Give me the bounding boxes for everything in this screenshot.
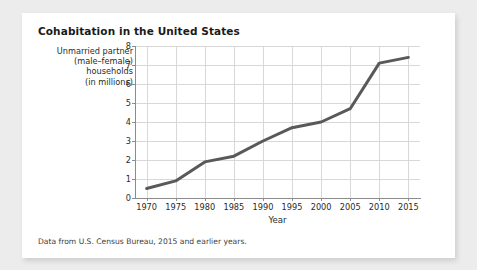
y-axis-tick-label: 5 — [126, 98, 131, 108]
x-axis-tick-mark — [350, 198, 351, 201]
y-axis-tick-label: 0 — [126, 193, 131, 203]
y-axis-label-line-1: Unmarried partner — [30, 46, 133, 56]
y-axis-tick-label: 1 — [126, 174, 131, 184]
page-title: Cohabitation in the United States — [38, 25, 240, 37]
x-axis-tick-mark — [292, 198, 293, 201]
x-axis-tick-label: 1995 — [282, 202, 303, 212]
y-axis-label: Unmarried partner (male–female) househol… — [30, 46, 133, 87]
x-axis-label: Year — [135, 215, 420, 225]
plot-area: 0123456781970197519801985199019952000200… — [135, 46, 420, 198]
y-axis-tick-mark — [132, 160, 135, 161]
y-axis-tick-mark — [132, 84, 135, 85]
x-axis-tick-label: 2010 — [369, 202, 390, 212]
y-axis-label-line-4: (in millions) — [30, 77, 133, 87]
x-axis-tick-label: 2000 — [311, 202, 332, 212]
x-axis-tick-mark — [205, 198, 206, 201]
chart-card: Cohabitation in the United States Unmarr… — [22, 13, 455, 258]
y-axis-tick-mark — [132, 198, 135, 199]
x-axis-tick-label: 1980 — [194, 202, 215, 212]
x-axis-line — [135, 198, 421, 199]
x-axis-tick-label: 1985 — [223, 202, 244, 212]
y-axis-label-line-2: (male–female) — [30, 56, 133, 66]
y-axis-tick-label: 3 — [126, 136, 131, 146]
source-caption: Data from U.S. Census Bureau, 2015 and e… — [38, 237, 247, 246]
y-axis-tick-label: 2 — [126, 155, 131, 165]
y-axis-tick-label: 8 — [126, 41, 131, 51]
x-axis-tick-label: 2005 — [340, 202, 361, 212]
x-axis-tick-mark — [147, 198, 148, 201]
x-axis-tick-mark — [234, 198, 235, 201]
x-axis-tick-mark — [176, 198, 177, 201]
y-axis-tick-mark — [132, 122, 135, 123]
x-axis-tick-mark — [263, 198, 264, 201]
data-series-line — [135, 46, 420, 198]
y-axis-label-line-3: households — [30, 66, 133, 76]
x-axis-tick-mark — [321, 198, 322, 201]
page-background: Cohabitation in the United States Unmarr… — [0, 0, 477, 270]
x-axis-tick-label: 2015 — [398, 202, 419, 212]
x-axis-tick-label: 1970 — [136, 202, 157, 212]
y-axis-tick-label: 6 — [126, 79, 131, 89]
y-axis-tick-mark — [132, 103, 135, 104]
y-axis-tick-mark — [132, 179, 135, 180]
x-axis-tick-label: 1975 — [165, 202, 186, 212]
y-axis-tick-label: 7 — [126, 60, 131, 70]
x-axis-tick-mark — [408, 198, 409, 201]
y-axis-tick-mark — [132, 65, 135, 66]
y-axis-tick-mark — [132, 46, 135, 47]
x-axis-tick-mark — [379, 198, 380, 201]
y-axis-tick-label: 4 — [126, 117, 131, 127]
x-axis-tick-label: 1990 — [253, 202, 274, 212]
y-axis-tick-mark — [132, 141, 135, 142]
